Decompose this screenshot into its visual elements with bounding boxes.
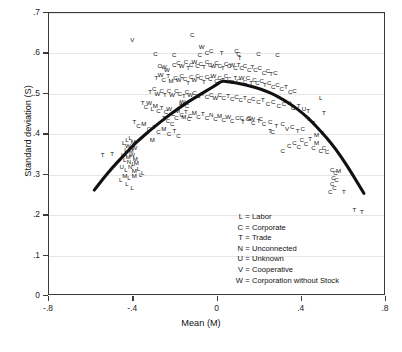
- x-tick-4: [385, 296, 386, 301]
- y-tick-label-7: .7: [14, 7, 40, 17]
- legend-equals: =: [243, 254, 252, 263]
- plot-area: VCCCCWCCTCCTCCCWWCCWCTCWCCTCCWCCTCCWCTCC…: [48, 12, 385, 295]
- legend-key: U: [234, 254, 243, 263]
- legend-label: Trade: [252, 233, 272, 242]
- legend-key: N: [234, 244, 243, 253]
- legend-key: W: [234, 276, 243, 285]
- legend-equals: =: [243, 223, 252, 232]
- x-tick-label-4: .8: [370, 303, 400, 313]
- x-axis-title: Mean (M): [0, 318, 402, 328]
- legend-equals: =: [243, 244, 252, 253]
- legend-label: Corporation without Stock: [252, 276, 339, 285]
- legend-row-w: W=Corporation without Stock: [234, 276, 339, 285]
- y-tick-label-4: .4: [14, 128, 40, 138]
- legend-row-n: N=Unconnected: [234, 244, 339, 253]
- legend-equals: =: [243, 276, 252, 285]
- x-tick-1: [132, 296, 133, 301]
- legend-label: Labor: [252, 212, 271, 221]
- y-tick-label-3: .3: [14, 169, 40, 179]
- x-tick-0: [48, 296, 49, 301]
- legend-key: T: [234, 233, 243, 242]
- x-tick-label-2: 0: [202, 303, 232, 313]
- y-tick-label-0: 0: [14, 290, 40, 300]
- legend-key: C: [234, 223, 243, 232]
- y-tick-label-2: .2: [14, 209, 40, 219]
- legend-equals: =: [243, 212, 252, 221]
- legend-row-v: V=Cooperative: [234, 265, 339, 274]
- legend-key: V: [234, 265, 243, 274]
- x-tick-label-3: .4: [286, 303, 316, 313]
- legend-row-t: T=Trade: [234, 233, 339, 242]
- legend-label: Unconnected: [252, 244, 297, 253]
- x-tick-label-0: -.8: [33, 303, 63, 313]
- legend-row-c: C=Corporate: [234, 223, 339, 232]
- legend-label: Unknown: [252, 254, 284, 263]
- x-tick-label-1: -.4: [117, 303, 147, 313]
- legend-equals: =: [243, 233, 252, 242]
- y-tick-label-5: .5: [14, 88, 40, 98]
- x-tick-3: [301, 296, 302, 301]
- y-tick-label-1: .1: [14, 250, 40, 260]
- legend-label: Cooperative: [252, 265, 293, 274]
- legend-label: Corporate: [252, 223, 286, 232]
- legend: L=LaborC=CorporateT=TradeN=UnconnectedU=…: [234, 212, 339, 286]
- legend-equals: =: [243, 265, 252, 274]
- legend-key: L: [234, 212, 243, 221]
- y-tick-label-6: .6: [14, 47, 40, 57]
- legend-row-u: U=Unknown: [234, 254, 339, 263]
- legend-row-l: L=Labor: [234, 212, 339, 221]
- x-tick-2: [217, 296, 218, 301]
- scatter-plot-figure: Standard deviation (S) 0.1.2.3.4.5.6.7 V…: [0, 0, 402, 352]
